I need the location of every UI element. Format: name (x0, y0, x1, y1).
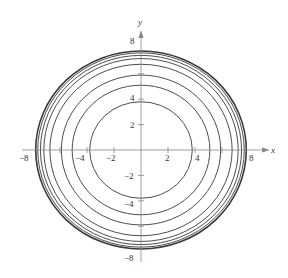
y-tick-label-neg4: −4 (124, 199, 134, 209)
x-tick-label-8: 8 (249, 153, 254, 163)
x-tick-label-neg8: −8 (19, 153, 29, 163)
x-tick-label-neg2: −2 (106, 153, 116, 163)
y-tick-label-neg8: −8 (124, 253, 134, 263)
y-axis-label: y (137, 17, 142, 27)
concentric-circles-chart: x y 8 4 2 −2 −4 −8 −8 −4 −2 2 4 8 (0, 0, 288, 278)
x-axis-arrow-icon (262, 148, 270, 153)
y-tick-label-2: 2 (130, 120, 135, 130)
y-tick-label-8: 8 (130, 36, 135, 46)
y-axis-arrow-icon (139, 30, 144, 38)
x-tick-label-2: 2 (165, 153, 170, 163)
y-tick-label-neg2: −2 (124, 171, 134, 181)
y-tick-label-4: 4 (130, 93, 135, 103)
x-axis-label: x (270, 145, 275, 155)
x-tick-label-neg4: −4 (75, 153, 85, 163)
x-tick-label-4: 4 (195, 153, 200, 163)
